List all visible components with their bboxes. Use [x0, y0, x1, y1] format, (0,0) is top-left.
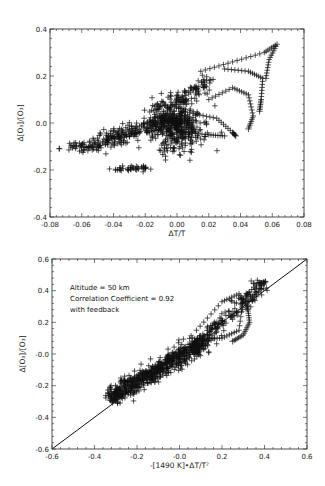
x-tick-label: -0.06 — [73, 221, 92, 229]
x-tick-label: -0.08 — [41, 221, 59, 229]
x-axis-title: ΔT/T — [169, 229, 186, 238]
bottom-chart-panel: -0.6-0.4-0.2-0.00.20.40.6-0.6-0.4-0.2-0.… — [0, 240, 325, 486]
y-tick-label: -0.0 — [35, 351, 49, 359]
x-tick-label: 0.2 — [216, 453, 227, 461]
x-tick-label: 0.06 — [264, 221, 280, 229]
x-tick-label: -0.6 — [45, 453, 59, 461]
y-tick-label: -0.2 — [35, 382, 49, 390]
x-tick-label: 0.4 — [259, 453, 271, 461]
y-axis-title: Δ[O₃]/[O₃] — [16, 104, 25, 141]
top-scatter-plot: -0.08-0.06-0.04-0.020.000.020.040.060.08… — [0, 0, 325, 240]
y-tick-label: -0.4 — [35, 414, 49, 422]
x-tick-label: 0.6 — [301, 453, 313, 461]
y-tick-label: 0.6 — [38, 256, 50, 264]
y-tick-label: 0.4 — [36, 26, 48, 34]
y-tick-label: 0.2 — [38, 319, 49, 327]
chart-annotation: Correlation Coefficient = 0.92 — [70, 295, 174, 303]
chart-annotation: Altitude = 50 km — [70, 284, 130, 292]
x-tick-label: -0.02 — [136, 221, 154, 229]
x-tick-label: 0.00 — [169, 221, 185, 229]
x-tick-label: 0.04 — [233, 221, 249, 229]
x-axis-title: -[1490 K]•ΔT/T² — [150, 461, 209, 470]
y-tick-label: -0.6 — [35, 446, 49, 454]
x-tick-label: -0.2 — [130, 453, 144, 461]
x-tick-label: -0.0 — [173, 453, 187, 461]
top-chart-panel: -0.08-0.06-0.04-0.020.000.020.040.060.08… — [0, 0, 325, 240]
y-tick-label: -0.4 — [33, 214, 47, 222]
y-tick-label: 0.0 — [36, 120, 47, 128]
y-axis-title: Δ[O₃]/[O₃] — [18, 335, 27, 372]
x-tick-label: -0.04 — [104, 221, 123, 229]
x-tick-label: 0.02 — [201, 221, 217, 229]
x-tick-label: 0.08 — [296, 221, 312, 229]
data-points — [56, 41, 279, 174]
y-tick-label: 0.4 — [38, 287, 50, 295]
bottom-scatter-plot: -0.6-0.4-0.2-0.00.20.40.6-0.6-0.4-0.2-0.… — [0, 240, 325, 486]
y-tick-label: 0.2 — [36, 73, 47, 81]
x-tick-label: -0.4 — [88, 453, 102, 461]
chart-annotation: with feedback — [70, 306, 120, 314]
y-tick-label: -0.2 — [33, 167, 47, 175]
